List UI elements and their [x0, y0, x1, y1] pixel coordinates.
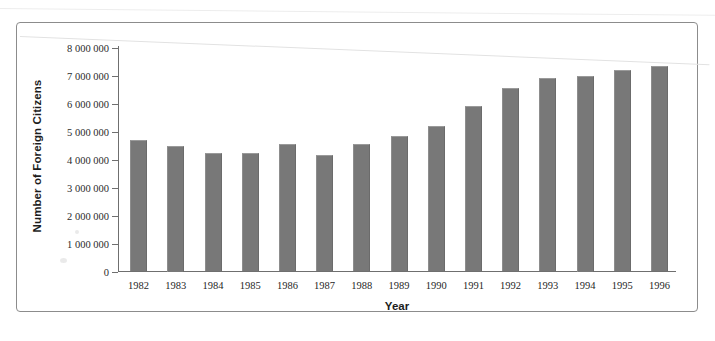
bar-1984 — [205, 153, 222, 271]
x-tick-label: 1989 — [389, 280, 410, 291]
x-tick-label: 1982 — [128, 280, 149, 291]
bar-1985 — [242, 153, 259, 271]
x-tick-label: 1995 — [612, 280, 633, 291]
x-tick-label: 1996 — [649, 280, 670, 291]
scan-artifact-line-top — [0, 8, 715, 16]
x-tick-label: 1991 — [463, 280, 484, 291]
y-tick-label: 4 000 000 — [67, 154, 109, 165]
y-tick-mark — [112, 76, 118, 77]
y-tick-label: 6 000 000 — [67, 98, 109, 109]
y-tick-label: 7 000 000 — [67, 70, 109, 81]
x-tick-label: 1984 — [203, 280, 224, 291]
x-axis-title: Year — [118, 300, 676, 312]
y-tick-label: 0 — [104, 266, 109, 277]
y-tick-label: 2 000 000 — [67, 210, 109, 221]
bar-1991 — [465, 106, 482, 271]
y-tick-label: 8 000 000 — [67, 42, 109, 53]
y-tick-label: 3 000 000 — [67, 182, 109, 193]
bar-1988 — [353, 144, 370, 271]
bar-1992 — [502, 88, 519, 271]
y-tick-mark — [112, 188, 118, 189]
x-tick-label: 1992 — [500, 280, 521, 291]
chart-figure: Number of Foreign Citizens 8 000 0007 00… — [0, 0, 715, 341]
y-tick-mark — [112, 160, 118, 161]
bar-1987 — [316, 155, 333, 271]
scan-smudge-left-upper — [75, 230, 79, 234]
bar-1995 — [614, 70, 631, 272]
x-tick-label: 1993 — [537, 280, 558, 291]
x-tick-label: 1983 — [165, 280, 186, 291]
y-tick-label: 1 000 000 — [67, 238, 109, 249]
scan-smudge-left — [60, 258, 67, 263]
y-tick-mark — [112, 216, 118, 217]
bar-1989 — [391, 136, 408, 271]
bar-1986 — [279, 144, 296, 271]
x-tick-label: 1987 — [314, 280, 335, 291]
y-tick-mark — [112, 272, 118, 273]
y-tick-mark — [112, 48, 118, 49]
y-tick-label: 5 000 000 — [67, 126, 109, 137]
x-tick-label: 1985 — [240, 280, 261, 291]
y-tick-mark — [112, 244, 118, 245]
y-tick-mark — [112, 132, 118, 133]
x-tick-label: 1994 — [575, 280, 596, 291]
bar-1990 — [428, 126, 445, 272]
y-tick-mark — [112, 104, 118, 105]
bar-1994 — [577, 76, 594, 272]
x-tick-label: 1986 — [277, 280, 298, 291]
y-axis-line — [118, 46, 119, 272]
bar-1982 — [130, 140, 147, 272]
x-tick-label: 1988 — [351, 280, 372, 291]
bar-1993 — [539, 78, 556, 271]
x-tick-label: 1990 — [426, 280, 447, 291]
bar-1996 — [651, 66, 668, 272]
plot-area: 8 000 0007 000 0006 000 0005 000 0004 00… — [118, 46, 676, 272]
bar-1983 — [167, 146, 184, 272]
y-axis-title: Number of Foreign Citizens — [31, 41, 43, 271]
